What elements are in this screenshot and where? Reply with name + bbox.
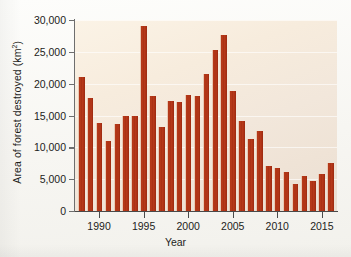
bar-slot xyxy=(237,20,246,211)
x-tick-label: 2010 xyxy=(266,220,289,232)
bar-slot xyxy=(193,20,202,211)
bar xyxy=(194,96,201,211)
y-tick-label: 10,000 xyxy=(0,141,66,153)
bar-slot xyxy=(255,20,264,211)
x-tick-label: 2015 xyxy=(310,220,333,232)
bar-slot xyxy=(326,20,335,211)
x-tick-mark xyxy=(99,212,100,218)
x-tick-mark xyxy=(277,212,278,218)
y-tick-mark xyxy=(69,52,75,53)
bar xyxy=(247,139,254,211)
bar-slot xyxy=(219,20,228,211)
bar xyxy=(122,116,129,211)
bar xyxy=(212,50,219,211)
bar-slot xyxy=(184,20,193,211)
y-tick-mark xyxy=(69,84,75,85)
bar-slot xyxy=(130,20,139,211)
bar-slot xyxy=(166,20,175,211)
y-tick-label: 20,000 xyxy=(0,78,66,90)
bar-slot xyxy=(210,20,219,211)
bar xyxy=(149,96,156,211)
bar-slot xyxy=(317,20,326,211)
y-tick-label: 0 xyxy=(0,205,66,217)
bar xyxy=(283,172,290,211)
x-axis-line xyxy=(74,211,338,212)
bar-slot xyxy=(112,20,121,211)
bar xyxy=(265,166,272,211)
bar xyxy=(140,26,147,211)
y-axis-label-close-paren: ) xyxy=(11,41,23,45)
bar-slot xyxy=(299,20,308,211)
bar-slot xyxy=(273,20,282,211)
y-tick-label: 25,000 xyxy=(0,46,66,58)
bar xyxy=(105,141,112,211)
bar xyxy=(78,77,85,211)
x-tick-mark xyxy=(188,212,189,218)
bar-slot xyxy=(264,20,273,211)
bar xyxy=(274,168,281,211)
y-tick-mark xyxy=(69,211,75,212)
bar-slot xyxy=(86,20,95,211)
bar xyxy=(327,163,334,211)
bar xyxy=(167,101,174,211)
bar-slot xyxy=(201,20,210,211)
bar xyxy=(176,102,183,211)
y-tick-label: 30,000 xyxy=(0,14,66,26)
bar xyxy=(87,98,94,211)
bar-slot xyxy=(175,20,184,211)
x-tick-mark xyxy=(322,212,323,218)
bar-slot xyxy=(246,20,255,211)
bar xyxy=(96,123,103,211)
y-tick-mark xyxy=(69,116,75,117)
x-tick-label: 2000 xyxy=(176,220,199,232)
bar xyxy=(309,181,316,211)
bar xyxy=(158,127,165,211)
x-tick-label: 1995 xyxy=(132,220,155,232)
y-tick-mark xyxy=(69,179,75,180)
x-tick-label: 1990 xyxy=(87,220,110,232)
bar-slot xyxy=(291,20,300,211)
bar xyxy=(185,95,192,211)
plot-area xyxy=(75,20,337,211)
bar xyxy=(131,116,138,211)
y-tick-label: 15,000 xyxy=(0,110,66,122)
bar-slot xyxy=(148,20,157,211)
bar-slot xyxy=(103,20,112,211)
chart-figure: Area of forest destroyed (km2) 05,00010,… xyxy=(0,0,351,257)
bar xyxy=(292,184,299,211)
bar-slot xyxy=(121,20,130,211)
bar xyxy=(229,91,236,211)
bar-slot xyxy=(282,20,291,211)
bar xyxy=(238,121,245,211)
x-tick-mark xyxy=(144,212,145,218)
bar xyxy=(318,174,325,211)
x-tick-mark xyxy=(233,212,234,218)
bar xyxy=(220,35,227,211)
bar-series xyxy=(75,20,337,211)
bar xyxy=(256,131,263,211)
bar-slot xyxy=(157,20,166,211)
x-tick-label: 2005 xyxy=(221,220,244,232)
bar-slot xyxy=(228,20,237,211)
bar xyxy=(203,74,210,211)
bar xyxy=(114,124,121,211)
bar-slot xyxy=(95,20,104,211)
bar-slot xyxy=(77,20,86,211)
bar-slot xyxy=(308,20,317,211)
bar xyxy=(301,176,308,211)
y-tick-mark xyxy=(69,20,75,21)
bar-slot xyxy=(139,20,148,211)
x-axis-label: Year xyxy=(0,236,351,248)
y-tick-label: 5,000 xyxy=(0,173,66,185)
y-tick-mark xyxy=(69,147,75,148)
